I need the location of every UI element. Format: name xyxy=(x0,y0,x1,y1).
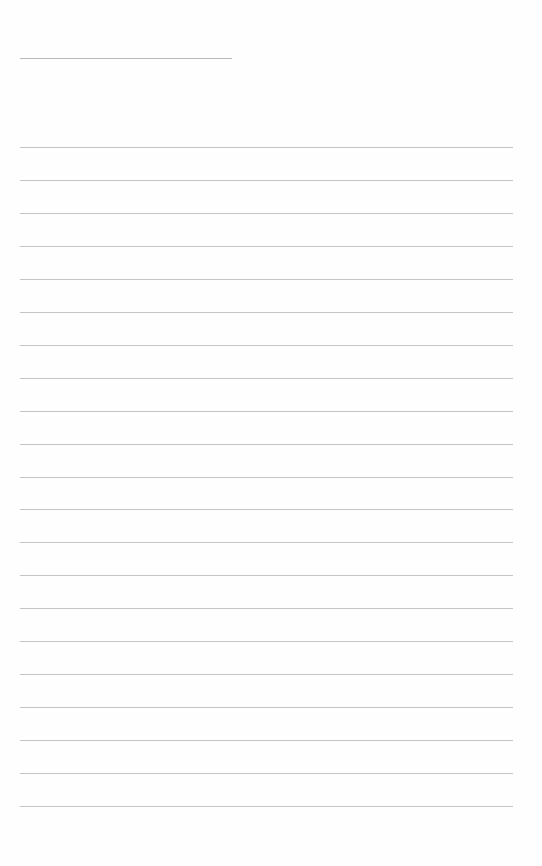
ruled-line xyxy=(20,411,513,412)
ruled-line xyxy=(20,444,513,445)
ruled-line xyxy=(20,312,513,313)
ruled-line xyxy=(20,509,513,510)
ruled-line xyxy=(20,641,513,642)
header-name-line xyxy=(20,58,232,59)
ruled-line xyxy=(20,608,513,609)
ruled-line xyxy=(20,773,513,774)
ruled-line xyxy=(20,279,513,280)
ruled-line xyxy=(20,378,513,379)
ruled-line xyxy=(20,575,513,576)
ruled-line xyxy=(20,542,513,543)
ruled-line xyxy=(20,345,513,346)
ruled-line xyxy=(20,213,513,214)
ruled-line xyxy=(20,674,513,675)
ruled-line xyxy=(20,180,513,181)
lined-paper-page xyxy=(0,0,542,866)
ruled-line xyxy=(20,740,513,741)
ruled-line xyxy=(20,707,513,708)
ruled-line xyxy=(20,806,513,807)
ruled-line xyxy=(20,147,513,148)
ruled-line xyxy=(20,246,513,247)
ruled-line xyxy=(20,477,513,478)
